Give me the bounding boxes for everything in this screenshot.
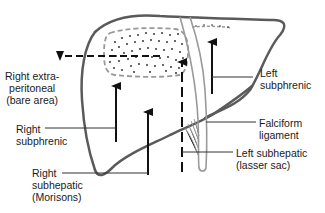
liver-spaces-diagram: Right extra- peritoneal (bare area) Righ…	[0, 0, 325, 213]
bare-area	[104, 28, 188, 77]
label-right-extraperitoneal: Right extra- peritoneal (bare area)	[5, 70, 59, 106]
label-right-subphrenic: Right subphrenic	[16, 123, 67, 147]
label-left-subphrenic: Left subphrenic	[260, 67, 311, 91]
label-falciform-ligament: Falciform ligament	[259, 117, 302, 141]
label-left-subhepatic: Left subhepatic (lasser sac)	[236, 147, 307, 171]
coronary-ligament	[192, 24, 232, 28]
falciform-ligament	[180, 17, 207, 171]
label-right-subhepatic: Right subhepatic (Morisons)	[32, 167, 83, 203]
leader-lines	[45, 77, 256, 173]
